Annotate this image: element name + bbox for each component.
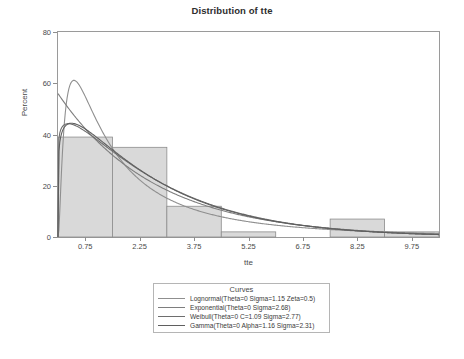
legend-item: Exponential(Theta=0 Sigma=2.68) — [154, 303, 329, 312]
y-tick-mark — [53, 83, 57, 84]
legend-item-label: Gamma(Theta=0 Alpha=1.16 Sigma=2.31) — [190, 321, 314, 330]
y-tick-mark — [53, 186, 57, 187]
histogram-bar — [330, 219, 384, 237]
x-tick-mark — [303, 237, 304, 241]
x-tick-label: 2.25 — [132, 242, 147, 251]
legend-line-swatch — [158, 307, 185, 308]
legend-item: Lognormal(Theta=0 Sigma=1.15 Zeta=0.5) — [154, 294, 329, 303]
x-tick-mark — [194, 237, 195, 241]
legend-line-swatch — [158, 298, 185, 299]
x-tick-mark — [412, 237, 413, 241]
y-tick-mark — [53, 32, 57, 33]
legend-item-label: Exponential(Theta=0 Sigma=2.68) — [190, 303, 290, 312]
x-tick-mark — [140, 237, 141, 241]
legend-item-label: Weibull(Theta=0 C=1.09 Sigma=2.77) — [190, 312, 301, 321]
x-axis-label: tte — [57, 258, 440, 267]
legend-line-swatch — [158, 316, 185, 317]
legend-item: Gamma(Theta=0 Alpha=1.16 Sigma=2.31) — [154, 321, 329, 330]
histogram-bar — [58, 137, 112, 237]
chart-title: Distribution of tte — [0, 5, 464, 16]
x-tick-label: 9.75 — [404, 242, 419, 251]
plot-graphics — [58, 32, 439, 237]
y-tick-label: 60 — [0, 79, 51, 88]
y-tick-label: 40 — [0, 130, 51, 139]
x-tick-mark — [357, 237, 358, 241]
y-tick-label: 0 — [0, 233, 51, 242]
distribution-chart: Distribution of tte Percent 020406080 0.… — [0, 0, 464, 359]
plot-area — [57, 31, 440, 238]
legend: Curves Lognormal(Theta=0 Sigma=1.15 Zeta… — [153, 283, 330, 333]
x-tick-label: 8.25 — [350, 242, 365, 251]
y-tick-label: 20 — [0, 181, 51, 190]
x-tick-label: 5.25 — [241, 242, 256, 251]
y-tick-mark — [53, 237, 57, 238]
x-tick-mark — [85, 237, 86, 241]
x-tick-mark — [249, 237, 250, 241]
legend-title: Curves — [154, 285, 329, 294]
x-tick-label: 6.75 — [296, 242, 311, 251]
x-tick-label: 3.75 — [187, 242, 202, 251]
legend-item-label: Lognormal(Theta=0 Sigma=1.15 Zeta=0.5) — [190, 294, 315, 303]
histogram-bar — [112, 147, 166, 237]
x-tick-label: 0.75 — [78, 242, 93, 251]
legend-line-swatch — [158, 325, 185, 326]
legend-item: Weibull(Theta=0 C=1.09 Sigma=2.77) — [154, 312, 329, 321]
histogram-bar — [167, 206, 221, 237]
y-tick-label: 80 — [0, 28, 51, 37]
y-tick-mark — [53, 135, 57, 136]
